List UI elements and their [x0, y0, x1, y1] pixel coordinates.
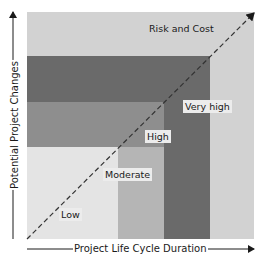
diagram-lines	[0, 0, 269, 269]
y-axis-label: Potential Project Changes	[9, 60, 21, 190]
risk-cost-diagonal-arrow	[27, 13, 254, 239]
x-axis-label: Project Life Cycle Duration	[73, 243, 208, 255]
